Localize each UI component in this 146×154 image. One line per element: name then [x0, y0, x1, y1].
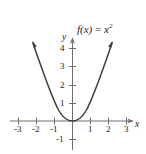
parabola-figure: f(x) = x2 y x -3 -2 -1 1 2 3 4 3 2 1 -1 [0, 0, 146, 154]
x-tick-label-3: 3 [124, 125, 129, 134]
y-tick-label-2: 2 [60, 81, 65, 90]
y-tick-label-1: 1 [60, 99, 65, 108]
function-label-exponent: 2 [109, 22, 113, 30]
x-tick-label-neg2: -2 [32, 125, 40, 134]
x-axis-label: x [135, 120, 139, 130]
y-tick-label-neg1: -1 [56, 135, 64, 144]
x-tick-label-neg3: -3 [14, 125, 22, 134]
y-tick-label-3: 3 [60, 62, 65, 71]
x-tick-label-neg1: -1 [50, 125, 58, 134]
x-tick-label-1: 1 [88, 125, 93, 134]
y-axis-label: y [62, 33, 66, 43]
function-label-equals: = [92, 23, 104, 35]
y-tick-label-4: 4 [60, 44, 65, 53]
function-label-arg: (x) [80, 23, 92, 35]
x-tick-label-2: 2 [106, 125, 111, 134]
function-label: f(x) = x2 [77, 23, 112, 35]
